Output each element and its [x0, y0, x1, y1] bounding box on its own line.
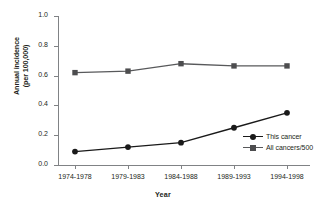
legend-item-all-cancers: All cancers/500: [243, 142, 313, 153]
chart-legend: This cancer All cancers/500: [243, 131, 313, 153]
y-tick-label: 0.2: [38, 130, 48, 137]
y-tick-label: 0.0: [38, 160, 48, 167]
data-point: [231, 125, 237, 131]
x-tick-label: 1979-1983: [98, 173, 158, 180]
chart-figure: Annual incidence (per 100,000) 1.00.80.6…: [0, 0, 326, 205]
x-tick-label: 1974-1978: [45, 173, 105, 180]
data-point: [72, 70, 77, 75]
legend-item-this-cancer: This cancer: [243, 131, 313, 142]
data-point: [178, 140, 184, 146]
x-tick-label: 1989-1993: [204, 173, 264, 180]
y-axis-title: Annual incidence (per 100,000): [12, 1, 30, 131]
y-tick-label: 0.4: [38, 100, 48, 107]
data-point: [284, 110, 290, 116]
y-axis-title-line-1: Annual incidence: [12, 1, 21, 131]
data-point: [72, 149, 78, 155]
y-tick-label: 1.0: [38, 11, 48, 18]
legend-label-all-cancers: All cancers/500: [266, 144, 313, 151]
data-point: [178, 61, 183, 66]
data-point: [125, 68, 130, 73]
legend-label-this-cancer: This cancer: [266, 133, 302, 140]
x-axis-title: Year: [0, 190, 326, 199]
x-tick-label: 1984-1988: [151, 173, 211, 180]
data-point: [284, 63, 289, 68]
legend-marker-square-icon: [243, 143, 263, 152]
data-point: [231, 63, 236, 68]
legend-marker-circle-icon: [243, 132, 263, 141]
y-tick-label: 0.6: [38, 71, 48, 78]
y-tick-label: 0.8: [38, 41, 48, 48]
x-tick-label: 1994-1998: [257, 173, 317, 180]
data-point: [125, 144, 131, 150]
y-axis-title-line-2: (per 100,000): [21, 1, 30, 131]
